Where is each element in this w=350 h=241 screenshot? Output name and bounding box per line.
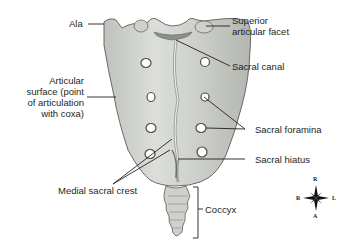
label-sacral-foramina: Sacral foramina: [255, 124, 322, 135]
coccyx-bone: [164, 186, 190, 236]
label-line: with coxa): [8, 108, 84, 119]
label-articular-surface: Articular surface (point of articulation…: [8, 75, 84, 119]
label-coccyx: Coccyx: [205, 204, 236, 215]
sacrum-diagram: Ala Superior articular facet Sacral cana…: [0, 0, 350, 241]
label-sacral-canal: Sacral canal: [232, 61, 284, 72]
compass-label-right: L: [332, 195, 336, 201]
compass-label-top: R: [313, 176, 317, 182]
label-line: Articular: [8, 75, 84, 86]
compass-label-bottom: A: [313, 213, 317, 219]
compass-icon: [303, 185, 329, 211]
label-ala: Ala: [69, 18, 83, 29]
compass-label-left: R: [296, 195, 300, 201]
coccyx-bracket: [193, 187, 203, 238]
sacrum-illustration: [0, 0, 350, 241]
label-line: surface (point: [8, 86, 84, 97]
label-line: Superior: [232, 15, 289, 26]
label-medial-sacral-crest: Medial sacral crest: [58, 185, 137, 196]
label-superior-articular-facet: Superior articular facet: [232, 15, 289, 37]
label-line: articular facet: [232, 26, 289, 37]
label-line: of articulation: [8, 97, 84, 108]
label-sacral-hiatus: Sacral hiatus: [255, 154, 310, 165]
